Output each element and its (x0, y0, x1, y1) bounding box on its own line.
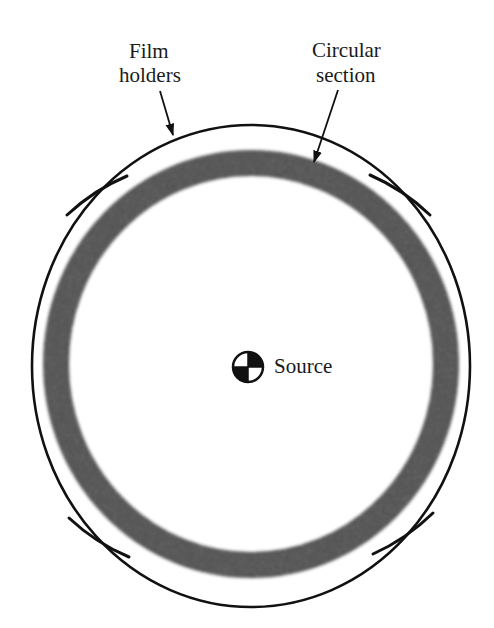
circular-section-label-line1: Circular (312, 38, 381, 62)
film-holders-arrow (160, 91, 173, 135)
film-holders-label-line2: holders (119, 63, 181, 87)
film-holders-label-line1: Film (129, 39, 169, 63)
circular-section-arrow (314, 90, 338, 162)
film-holder-diagram: Film holders Circular section Source (0, 0, 494, 628)
source-label: Source (274, 354, 332, 378)
source-icon (233, 352, 263, 382)
circular-section-label-line2: section (316, 63, 376, 87)
